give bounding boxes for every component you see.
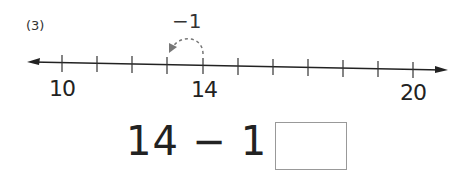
tick-label-10: 10 — [49, 76, 75, 101]
left-arrow-icon — [27, 58, 40, 65]
answer-box[interactable] — [275, 122, 347, 170]
tick-label-20: 20 — [400, 80, 426, 105]
hop-arrowhead-icon — [169, 43, 177, 53]
tick-label-14: 14 — [191, 77, 217, 102]
ticks — [62, 55, 413, 78]
hop-arc — [172, 39, 203, 54]
right-arrow-icon — [435, 66, 448, 73]
